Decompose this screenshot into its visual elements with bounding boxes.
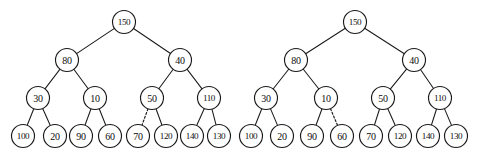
tree-node-R-50[interactable]: 50 [372, 87, 395, 110]
tree-node-R-110[interactable]: 110 [429, 87, 452, 110]
node-circle-R-20[interactable] [271, 125, 294, 148]
tree-node-R-20[interactable]: 20 [271, 125, 294, 148]
node-circle-R-50[interactable] [372, 87, 395, 110]
node-circle-L-60[interactable] [99, 125, 122, 148]
tree-edge-L-40-to-L-50 [159, 69, 173, 88]
left-tree-nodes: 150804030105011010020906070120140130 [12, 11, 231, 148]
tree-node-R-130[interactable]: 130 [445, 125, 468, 148]
tree-node-L-80[interactable]: 80 [56, 49, 79, 72]
tree-node-R-100[interactable]: 100 [240, 125, 263, 148]
tree-edge-R-110-to-R-130 [444, 109, 451, 126]
tree-node-L-40[interactable]: 40 [169, 49, 192, 72]
tree-node-L-70[interactable]: 70 [127, 125, 150, 148]
node-circle-R-30[interactable] [255, 87, 278, 110]
node-circle-L-120[interactable] [155, 125, 178, 148]
tree-node-L-50[interactable]: 50 [141, 87, 164, 110]
tree-node-R-40[interactable]: 40 [403, 49, 426, 72]
tree-edge-L-110-to-L-140 [197, 109, 205, 126]
tree-edge-R-80-to-R-10 [303, 69, 319, 89]
node-circle-R-70[interactable] [360, 125, 383, 148]
node-circle-L-110[interactable] [198, 87, 221, 110]
node-circle-L-30[interactable] [27, 87, 50, 110]
tree-node-R-80[interactable]: 80 [285, 49, 308, 72]
tree-node-L-30[interactable]: 30 [27, 87, 50, 110]
node-circle-R-150[interactable] [344, 11, 367, 34]
tree-edge-L-50-to-L-70 [142, 109, 148, 125]
tree-edge-L-10-to-L-60 [99, 109, 106, 126]
tree-node-L-60[interactable]: 60 [99, 125, 122, 148]
tree-edge-L-150-to-L-40 [134, 28, 171, 53]
node-circle-R-60[interactable] [331, 125, 354, 148]
right-tree-nodes: 150804030105011010020906070120140130 [240, 11, 468, 148]
node-circle-R-80[interactable] [285, 49, 308, 72]
tree-node-L-120[interactable]: 120 [155, 125, 178, 148]
tree-node-R-90[interactable]: 90 [301, 125, 324, 148]
node-circle-L-10[interactable] [84, 87, 107, 110]
tree-node-L-110[interactable]: 110 [198, 87, 221, 110]
node-circle-L-130[interactable] [208, 125, 231, 148]
tree-node-R-120[interactable]: 120 [389, 125, 412, 148]
tree-edge-R-50-to-R-120 [388, 109, 396, 126]
tree-figure: 1508040301050110100209060701201401301508… [0, 0, 477, 159]
tree-edge-R-40-to-R-110 [420, 69, 433, 88]
left-tree-edges [27, 28, 216, 125]
tree-edge-L-30-to-L-20 [43, 109, 51, 126]
node-circle-L-70[interactable] [127, 125, 150, 148]
node-circle-L-20[interactable] [44, 125, 67, 148]
node-circle-R-110[interactable] [429, 87, 452, 110]
node-circle-R-140[interactable] [417, 125, 440, 148]
tree-diagram-canvas: 1508040301050110100209060701201401301508… [0, 0, 477, 159]
tree-edge-L-80-to-L-30 [45, 69, 60, 89]
node-circle-R-100[interactable] [240, 125, 263, 148]
node-circle-L-40[interactable] [169, 49, 192, 72]
tree-node-L-150[interactable]: 150 [113, 11, 136, 34]
tree-node-R-60[interactable]: 60 [331, 125, 354, 148]
tree-node-L-140[interactable]: 140 [181, 125, 204, 148]
right-tree-edges [255, 28, 451, 125]
tree-node-L-100[interactable]: 100 [12, 125, 35, 148]
node-circle-L-150[interactable] [113, 11, 136, 34]
node-circle-L-100[interactable] [12, 125, 35, 148]
node-circle-L-140[interactable] [181, 125, 204, 148]
tree-node-L-90[interactable]: 90 [70, 125, 93, 148]
tree-edge-L-10-to-L-90 [85, 109, 91, 125]
node-circle-L-50[interactable] [141, 87, 164, 110]
node-circle-R-120[interactable] [389, 125, 412, 148]
tree-edge-L-30-to-L-100 [27, 109, 34, 126]
tree-edge-L-150-to-L-80 [77, 28, 115, 53]
tree-node-L-10[interactable]: 10 [84, 87, 107, 110]
node-circle-R-90[interactable] [301, 125, 324, 148]
tree-edge-R-30-to-R-100 [255, 109, 262, 126]
tree-edge-R-50-to-R-70 [374, 109, 379, 125]
tree-edge-R-80-to-R-30 [273, 69, 289, 89]
tree-node-R-70[interactable]: 70 [360, 125, 383, 148]
tree-node-R-30[interactable]: 30 [255, 87, 278, 110]
node-circle-L-90[interactable] [70, 125, 93, 148]
tree-edge-R-110-to-R-140 [431, 109, 436, 125]
tree-node-L-20[interactable]: 20 [44, 125, 67, 148]
tree-edge-R-10-to-R-90 [316, 109, 322, 125]
node-circle-R-10[interactable] [315, 87, 338, 110]
tree-edge-L-80-to-L-10 [74, 69, 88, 88]
tree-edge-R-30-to-R-20 [270, 109, 277, 126]
tree-edge-L-110-to-L-130 [212, 109, 216, 125]
node-circle-R-130[interactable] [445, 125, 468, 148]
tree-edge-R-10-to-R-60 [330, 109, 337, 126]
node-circle-R-40[interactable] [403, 49, 426, 72]
tree-edge-L-50-to-L-120 [156, 109, 162, 125]
tree-edge-L-40-to-L-110 [187, 69, 202, 89]
tree-node-R-140[interactable]: 140 [417, 125, 440, 148]
tree-edge-R-40-to-R-50 [390, 69, 406, 89]
tree-node-R-150[interactable]: 150 [344, 11, 367, 34]
tree-node-L-130[interactable]: 130 [208, 125, 231, 148]
tree-edge-R-150-to-R-80 [306, 28, 346, 54]
edges-layer [27, 28, 451, 125]
tree-node-R-10[interactable]: 10 [315, 87, 338, 110]
tree-edge-R-150-to-R-40 [365, 28, 405, 54]
node-circle-L-80[interactable] [56, 49, 79, 72]
